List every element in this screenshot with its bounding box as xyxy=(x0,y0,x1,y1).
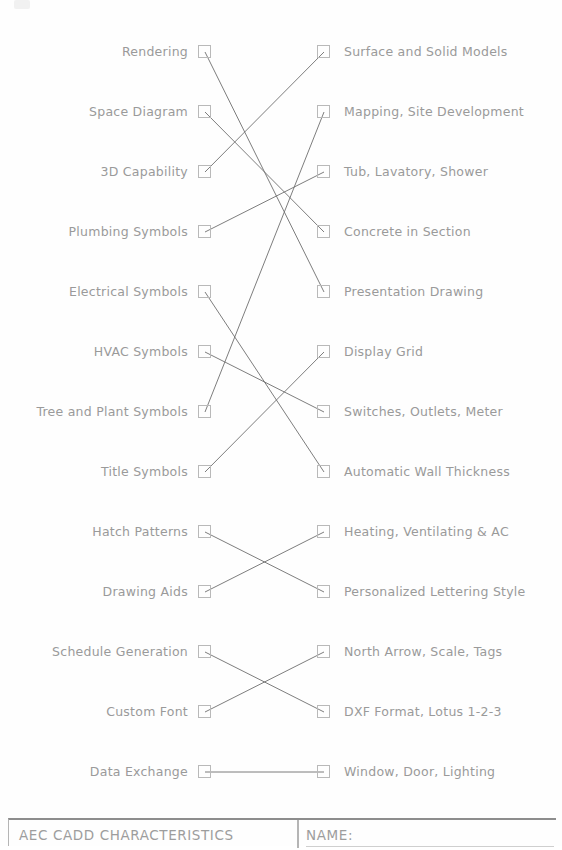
match-right-checkbox[interactable] xyxy=(317,525,330,538)
match-left-label: Title Symbols xyxy=(0,463,188,481)
match-right-label: Switches, Outlets, Meter xyxy=(344,403,503,421)
match-left-label: Plumbing Symbols xyxy=(0,223,188,241)
match-left-checkbox[interactable] xyxy=(198,585,211,598)
match-left-checkbox[interactable] xyxy=(198,345,211,358)
match-right-label: North Arrow, Scale, Tags xyxy=(344,643,502,661)
match-right-label: Surface and Solid Models xyxy=(344,43,508,61)
match-left-checkbox[interactable] xyxy=(198,465,211,478)
match-row: Custom FontDXF Format, Lotus 1-2-3 xyxy=(0,703,562,721)
match-row: Data ExchangeWindow, Door, Lighting xyxy=(0,763,562,781)
match-left-label: Hatch Patterns xyxy=(0,523,188,541)
match-left-checkbox[interactable] xyxy=(198,165,211,178)
match-connector xyxy=(205,292,324,472)
match-row: Plumbing SymbolsConcrete in Section xyxy=(0,223,562,241)
match-row: RenderingSurface and Solid Models xyxy=(0,43,562,61)
match-right-checkbox[interactable] xyxy=(317,405,330,418)
match-right-checkbox[interactable] xyxy=(317,645,330,658)
match-left-checkbox[interactable] xyxy=(198,765,211,778)
title-block: AEC CADD CHARACTERISTICS NAME: xyxy=(8,818,556,846)
match-left-checkbox[interactable] xyxy=(198,45,211,58)
match-row: Tree and Plant SymbolsSwitches, Outlets,… xyxy=(0,403,562,421)
match-right-checkbox[interactable] xyxy=(317,45,330,58)
match-row: 3D CapabilityTub, Lavatory, Shower xyxy=(0,163,562,181)
match-right-label: Display Grid xyxy=(344,343,423,361)
title-block-divider xyxy=(297,820,299,848)
match-connector xyxy=(205,112,324,412)
match-right-label: Concrete in Section xyxy=(344,223,471,241)
match-left-label: HVAC Symbols xyxy=(0,343,188,361)
match-right-checkbox[interactable] xyxy=(317,225,330,238)
match-left-checkbox[interactable] xyxy=(198,705,211,718)
match-row: Space DiagramMapping, Site Development xyxy=(0,103,562,121)
match-left-label: Data Exchange xyxy=(0,763,188,781)
match-row: Drawing AidsPersonalized Lettering Style xyxy=(0,583,562,601)
match-row: Schedule GenerationNorth Arrow, Scale, T… xyxy=(0,643,562,661)
match-left-checkbox[interactable] xyxy=(198,105,211,118)
match-row: Electrical SymbolsPresentation Drawing xyxy=(0,283,562,301)
match-row: HVAC SymbolsDisplay Grid xyxy=(0,343,562,361)
match-left-label: Tree and Plant Symbols xyxy=(0,403,188,421)
match-left-label: Schedule Generation xyxy=(0,643,188,661)
match-right-label: Window, Door, Lighting xyxy=(344,763,495,781)
match-right-checkbox[interactable] xyxy=(317,345,330,358)
match-right-label: Presentation Drawing xyxy=(344,283,483,301)
match-row: Title SymbolsAutomatic Wall Thickness xyxy=(0,463,562,481)
match-right-label: Tub, Lavatory, Shower xyxy=(344,163,488,181)
match-right-label: Personalized Lettering Style xyxy=(344,583,526,601)
match-right-label: Heating, Ventilating & AC xyxy=(344,523,509,541)
match-right-checkbox[interactable] xyxy=(317,765,330,778)
match-left-label: 3D Capability xyxy=(0,163,188,181)
match-left-checkbox[interactable] xyxy=(198,525,211,538)
match-right-label: DXF Format, Lotus 1-2-3 xyxy=(344,703,502,721)
match-left-label: Drawing Aids xyxy=(0,583,188,601)
match-right-checkbox[interactable] xyxy=(317,705,330,718)
match-left-label: Electrical Symbols xyxy=(0,283,188,301)
match-right-checkbox[interactable] xyxy=(317,285,330,298)
match-left-checkbox[interactable] xyxy=(198,285,211,298)
match-right-checkbox[interactable] xyxy=(317,465,330,478)
match-left-label: Space Diagram xyxy=(0,103,188,121)
match-left-label: Custom Font xyxy=(0,703,188,721)
match-right-checkbox[interactable] xyxy=(317,105,330,118)
match-right-checkbox[interactable] xyxy=(317,585,330,598)
match-row: Hatch PatternsHeating, Ventilating & AC xyxy=(0,523,562,541)
title-block-name-underline xyxy=(306,846,554,847)
match-left-checkbox[interactable] xyxy=(198,405,211,418)
match-left-checkbox[interactable] xyxy=(198,225,211,238)
match-left-checkbox[interactable] xyxy=(198,645,211,658)
match-right-checkbox[interactable] xyxy=(317,165,330,178)
match-left-label: Rendering xyxy=(0,43,188,61)
title-block-sheet-name: AEC CADD CHARACTERISTICS xyxy=(19,820,234,848)
match-right-label: Automatic Wall Thickness xyxy=(344,463,510,481)
scan-artifact xyxy=(14,0,30,9)
title-block-name-label[interactable]: NAME: xyxy=(306,820,353,848)
match-right-label: Mapping, Site Development xyxy=(344,103,524,121)
